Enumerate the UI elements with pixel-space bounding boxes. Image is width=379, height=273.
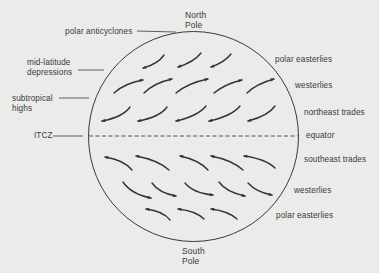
wind-row-north-westerlies: [114, 79, 274, 93]
label-north-polar-easterlies: polar easterlies: [275, 55, 332, 65]
wind-arrow: [152, 183, 176, 196]
wind-arrow: [102, 107, 130, 121]
north-pole-line2: Pole: [185, 21, 206, 31]
mid-latitude-line2: depressions: [27, 68, 72, 78]
wind-arrow: [114, 80, 143, 93]
subtropical-line2: highs: [12, 104, 53, 114]
label-itcz: ITCZ: [34, 131, 53, 141]
wind-arrow: [219, 182, 245, 196]
wind-arrow: [214, 80, 242, 93]
wind-arrow: [178, 53, 201, 67]
wind-arrow: [247, 79, 274, 93]
wind-arrow: [123, 182, 151, 198]
wind-arrow: [248, 183, 272, 195]
wind-arrow: [176, 106, 206, 121]
wind-row-north-polar-easterlies: [143, 53, 231, 68]
wind-row-south-westerlies: [123, 182, 272, 198]
label-north-westerlies: westerlies: [295, 81, 332, 91]
label-south-polar-easterlies: polar easterlies: [276, 211, 333, 221]
mid-latitude-line1: mid-latitude: [27, 58, 72, 68]
leader-polar-anticyclones: [137, 31, 176, 32]
wind-arrow: [178, 209, 204, 219]
wind-arrow: [209, 106, 240, 121]
wind-arrow: [146, 209, 170, 220]
label-southeast-trades: southeast trades: [304, 155, 366, 165]
wind-row-southeast-trades: [105, 156, 275, 170]
wind-arrow: [244, 156, 275, 168]
wind-row-northeast-trades: [102, 106, 275, 121]
wind-arrow: [211, 54, 231, 67]
wind-arrow: [248, 106, 275, 121]
label-subtropical-highs: subtropical highs: [12, 94, 53, 113]
south-pole-line2: Pole: [182, 257, 205, 267]
north-pole-label: North Pole: [185, 11, 206, 30]
wind-arrow: [185, 183, 213, 195]
wind-arrow: [143, 55, 164, 68]
subtropical-line1: subtropical: [12, 94, 53, 104]
wind-row-south-polar-easterlies: [146, 209, 237, 220]
label-south-westerlies: westerlies: [294, 186, 331, 196]
wind-arrow: [180, 156, 208, 170]
wind-arrow: [176, 79, 208, 93]
wind-arrow: [138, 107, 167, 121]
wind-arrow: [211, 209, 237, 219]
label-mid-latitude-depressions: mid-latitude depressions: [27, 58, 72, 77]
wind-arrow: [105, 157, 132, 170]
label-equator: equator: [306, 131, 334, 141]
globe-outline: [89, 32, 299, 242]
wind-arrow: [211, 156, 243, 170]
south-pole-label: South Pole: [182, 247, 205, 266]
wind-arrow: [136, 156, 169, 170]
label-polar-anticyclones: polar anticyclones: [65, 27, 132, 37]
wind-arrow: [144, 79, 172, 93]
label-northeast-trades: northeast trades: [304, 108, 365, 118]
